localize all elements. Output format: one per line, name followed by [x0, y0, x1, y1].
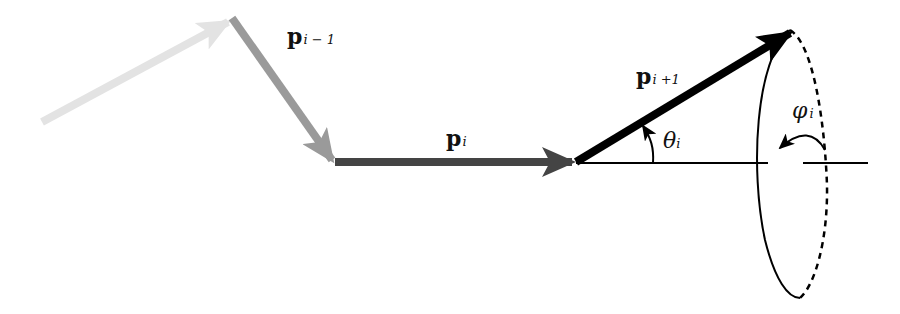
phi-rotation-arrow [780, 135, 825, 150]
bond-vector-p-i-minus-2 [42, 22, 228, 122]
label-phi-i: φi [792, 98, 814, 123]
polymer-chain-diagram: pi − 1 pi pi +1 θi φi [0, 0, 900, 314]
theta-angle-arc [643, 126, 653, 163]
label-p-i-plus-1: pi +1 [636, 63, 680, 89]
label-p-i: pi [446, 125, 467, 151]
label-p-i-minus-1: pi − 1 [287, 23, 335, 49]
label-theta-i: θi [663, 128, 680, 153]
